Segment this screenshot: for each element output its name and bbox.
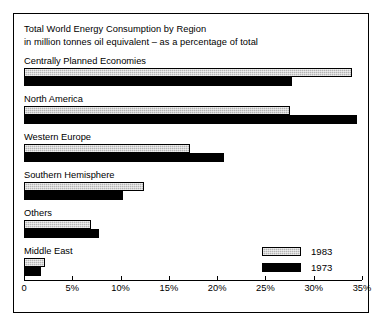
legend-swatch-1973 [262, 263, 301, 272]
bar-1983 [24, 106, 290, 115]
bar-pair [24, 68, 362, 87]
category-label: Western Europe [24, 132, 91, 143]
category-label: North America [24, 94, 83, 105]
chart-title-block: Total World Energy Consumption by Region… [24, 23, 354, 48]
x-axis-tick-label: 25% [256, 283, 275, 294]
x-axis-tick [362, 276, 363, 280]
bar-1973 [24, 115, 357, 124]
chart-subtitle: in million tonnes oil equivalent – as a … [24, 36, 354, 49]
category-label: Others [24, 208, 52, 219]
x-axis-tick-label: 35% [353, 283, 372, 294]
x-axis-tick-label: 20% [208, 283, 227, 294]
x-axis-tick [121, 276, 122, 280]
bar-1973 [24, 229, 99, 238]
x-axis-line [24, 280, 362, 281]
x-axis-tick-label: 10% [111, 283, 130, 294]
bar-1983 [24, 68, 352, 77]
chart-legend: 1983 1973 [262, 246, 352, 278]
bar-1973 [24, 191, 123, 200]
chart-figure: Total World Energy Consumption by Region… [13, 13, 369, 313]
x-axis-tick [169, 276, 170, 280]
x-axis-tick-label: 5% [66, 283, 79, 294]
x-axis-tick [217, 276, 218, 280]
x-axis-tick [314, 276, 315, 280]
bar-pair [24, 182, 362, 201]
legend-item-1973: 1973 [262, 262, 352, 275]
x-axis: 05%10%15%20%25%30%35% [24, 280, 362, 302]
bar-1973 [24, 77, 292, 86]
x-axis-tick [265, 276, 266, 280]
category-label: Southern Hemisphere [24, 170, 114, 181]
x-axis-tick [24, 276, 25, 280]
bar-pair [24, 220, 362, 239]
bar-1983 [24, 220, 91, 229]
bar-1973 [24, 153, 224, 162]
category-label: Middle East [24, 246, 73, 257]
category-label: Centrally Planned Economies [24, 56, 146, 67]
x-axis-tick-label: 0 [21, 283, 26, 294]
bar-1973 [24, 267, 41, 276]
bar-1983 [24, 182, 144, 191]
x-axis-tick-label: 30% [304, 283, 323, 294]
legend-label-1973: 1973 [311, 262, 332, 273]
x-axis-tick [72, 276, 73, 280]
bar-pair [24, 144, 362, 163]
x-axis-tick-label: 15% [160, 283, 179, 294]
legend-swatch-1983 [262, 247, 301, 256]
chart-title: Total World Energy Consumption by Region [24, 23, 354, 36]
legend-item-1983: 1983 [262, 246, 352, 259]
bar-1983 [24, 144, 190, 153]
bar-pair [24, 106, 362, 125]
bar-1983 [24, 258, 45, 267]
legend-label-1983: 1983 [311, 246, 332, 257]
